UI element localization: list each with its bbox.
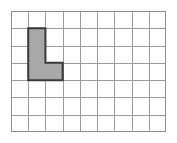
l-shape-polygon [28,28,62,80]
figure-title: Shaded L-shape on a square grid [0,21,1,22]
grid-svg [11,11,166,132]
figure-root: Shaded L-shape on a square grid A rectan… [0,0,177,143]
shape-group [28,28,62,80]
figure-description: A rectangular grid of unit squares with … [0,16,1,17]
grid-area [11,11,166,132]
